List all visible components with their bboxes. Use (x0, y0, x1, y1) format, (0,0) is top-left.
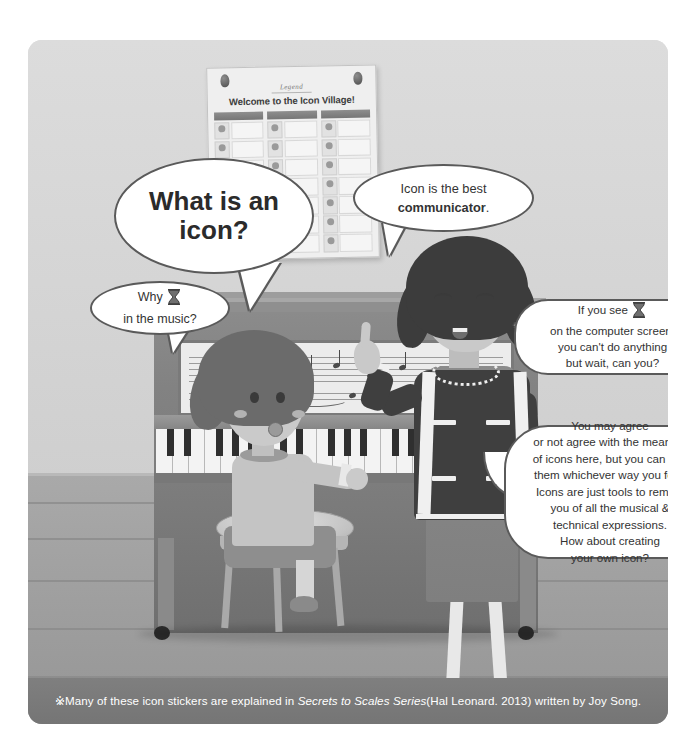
bubble-line: Icon is the best (365, 179, 522, 198)
piano-leg-left (158, 538, 174, 630)
bubble-line: of icons here, but you can use (516, 451, 668, 467)
illustration-frame: Legend Welcome to the Icon Village! (28, 40, 668, 724)
girl-eye-left (250, 392, 259, 403)
bubble-line: your own icon? (516, 550, 668, 566)
bubble-line: you of all the musical & (516, 500, 668, 516)
poster-title: Welcome to the Icon Village! (208, 93, 376, 107)
speech-bubble-what-is-an-icon: What is an icon? (114, 158, 314, 274)
bubble-line: What is an (126, 187, 302, 216)
teacher-index-finger (360, 322, 371, 349)
girl-shoe (290, 596, 318, 612)
bubble-line: but wait, can you? (526, 355, 668, 371)
girl-hand (346, 468, 368, 490)
bubble-line: Icons are just tools to remind (516, 484, 668, 500)
girl-mouth (268, 422, 283, 437)
caption-bar: ※Many of these icon stickers are explain… (28, 678, 668, 724)
teacher-hair (406, 236, 528, 340)
hourglass-icon (168, 289, 180, 310)
speech-bubble-if-you-see-hourglass: If you see on the computer screen, you c… (514, 299, 668, 375)
bubble-line: technical expressions. (516, 517, 668, 533)
bubble-line: If you see (526, 302, 668, 322)
bubble-line: icon? (126, 216, 302, 245)
poster-legend-label: Legend (207, 81, 375, 94)
bubble-line: them whichever way you feel. (516, 467, 668, 483)
speech-bubble-you-may-agree: You may agree or not agree with the mean… (504, 425, 668, 559)
caption-text: ※Many of these icon stickers are explain… (55, 694, 641, 708)
bubble-line: in the music? (102, 310, 218, 328)
hourglass-icon (633, 302, 645, 322)
bubble-line: How about creating (516, 533, 668, 549)
bubble-line: You may agree (516, 418, 668, 434)
teacher-eye-left (434, 293, 452, 304)
speech-bubble-best-communicator: Icon is the best communicator. (353, 164, 534, 232)
speech-bubble-why-in-the-music: Why in the music? (90, 281, 230, 335)
bubble-line: or not agree with the meaning (516, 434, 668, 450)
illustration-canvas: Legend Welcome to the Icon Village! (0, 0, 693, 752)
teacher-eye-right (476, 293, 494, 304)
bubble-line: you can't do anything (526, 339, 668, 355)
bubble-line: Why (102, 288, 218, 310)
bubble-line-emphasis: communicator. (365, 198, 522, 217)
girl-eye-right (276, 392, 285, 403)
teacher-necklace (432, 358, 500, 386)
bubble-line: on the computer screen, (526, 323, 668, 339)
reference-mark-icon: ※ (55, 694, 65, 707)
book-title: Secrets to Scales Series (298, 694, 427, 707)
